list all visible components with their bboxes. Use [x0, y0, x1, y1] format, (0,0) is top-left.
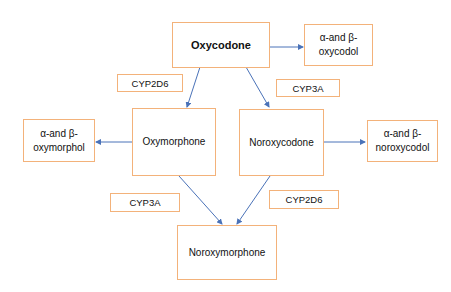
arrow-noroxycodone-noroxymorphone [237, 176, 270, 224]
node-label: Noroxycodone [249, 136, 313, 150]
node-label: Oxycodone [191, 38, 251, 52]
node-oxycodone: Oxycodone [172, 22, 270, 68]
enzyme-text: CYP3A [129, 197, 160, 208]
arrow-oxymorphone-noroxymorphone [179, 176, 222, 224]
node-label-line1: α-and β- [384, 128, 422, 139]
arrow-oxycodone-noroxycodone [246, 67, 269, 107]
enzyme-label-cyp3a-2: CYP3A [110, 193, 180, 212]
enzyme-label-cyp3a-1: CYP3A [276, 79, 340, 97]
node-label-line1: α-and β- [320, 32, 358, 43]
arrow-oxycodone-oxymorphone [187, 67, 200, 107]
node-label-line2: oxymorphol [33, 142, 85, 153]
node-label: Oxymorphone [143, 135, 206, 149]
enzyme-label-cyp2d6-1: CYP2D6 [117, 74, 183, 92]
node-label-line2: oxycodol [319, 46, 358, 57]
node-label-line2: noroxycodol [376, 142, 430, 153]
enzyme-text: CYP3A [292, 83, 323, 94]
enzyme-text: CYP2D6 [132, 78, 169, 89]
node-label: Noroxymorphone [189, 246, 266, 260]
node-label-line1: α-and β- [40, 128, 78, 139]
enzyme-label-cyp2d6-2: CYP2D6 [269, 190, 339, 209]
node-noroxycodone: Noroxycodone [239, 109, 324, 176]
enzyme-text: CYP2D6 [286, 194, 323, 205]
node-noroxymorphone: Noroxymorphone [177, 225, 277, 280]
node-noroxycodol: α-and β- noroxycodol [367, 120, 438, 162]
node-oxymorphone: Oxymorphone [132, 108, 216, 176]
node-oxycodol: α-and β- oxycodol [304, 24, 373, 66]
node-oxymorphol: α-and β- oxymorphol [23, 119, 95, 162]
